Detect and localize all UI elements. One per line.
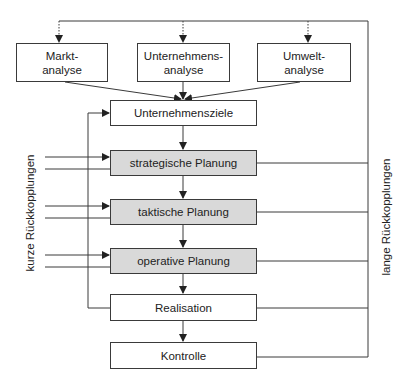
label-lange-rueckkopplungen: lange Rückkopplungen — [380, 152, 392, 282]
box-operative-planung: operative Planung — [110, 248, 257, 274]
box-unternehmensziele-label: Unternehmensziele — [134, 106, 233, 120]
box-strategische-planung: strategische Planung — [110, 150, 257, 176]
box-kontrolle-label: Kontrolle — [161, 349, 206, 363]
box-unternehmensziele: Unternehmensziele — [110, 100, 257, 126]
box-marktanalyse-line1: Markt- — [46, 49, 79, 63]
box-realisation: Realisation — [110, 294, 257, 321]
box-marktanalyse: Markt- analyse — [16, 43, 108, 82]
label-kurze-rueckkopplungen: kurze Rückkopplungen — [24, 148, 36, 278]
box-strategische-planung-label: strategische Planung — [130, 156, 237, 170]
box-unternehmensanalyse: Unternehmens- analyse — [137, 43, 230, 82]
box-unternehmensanalyse-line1: Unternehmens- — [144, 49, 223, 63]
box-taktische-planung: taktische Planung — [110, 199, 257, 225]
box-operative-planung-label: operative Planung — [137, 254, 230, 268]
box-umweltanalyse: Umwelt- analyse — [257, 43, 351, 82]
box-taktische-planung-label: taktische Planung — [138, 205, 229, 219]
box-marktanalyse-line2: analyse — [42, 63, 82, 77]
box-kontrolle: Kontrolle — [110, 342, 257, 369]
box-realisation-label: Realisation — [155, 301, 212, 315]
box-unternehmensanalyse-line2: analyse — [164, 63, 204, 77]
box-umweltanalyse-line2: analyse — [284, 63, 324, 77]
box-umweltanalyse-line1: Umwelt- — [283, 49, 325, 63]
